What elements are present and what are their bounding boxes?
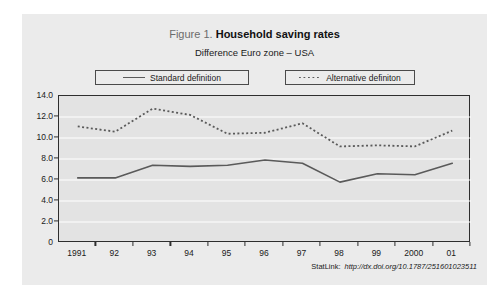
chart-legend: Standard definition Alternative definito…	[95, 70, 415, 85]
y-axis-tick-mark	[54, 220, 58, 221]
statlink-url[interactable]: http://dx.doi.org/10.1787/251601023511	[345, 262, 477, 271]
x-axis-tick-mark	[207, 242, 208, 246]
x-axis-tick-label: 92	[109, 248, 118, 258]
legend-label-alternative: Alternative definiton	[326, 73, 401, 83]
x-axis-tick-mark	[282, 242, 283, 246]
x-axis-tick-mark	[95, 242, 96, 246]
y-axis-tick-mark	[54, 136, 58, 137]
plot-wrapper: 14.012.010.08.06.04.02.00 19919293949596…	[58, 95, 470, 242]
x-axis-tick-label: 96	[259, 248, 268, 258]
x-axis-tick-label: 95	[222, 248, 231, 258]
y-axis-tick-label: 14.0	[36, 90, 53, 100]
x-axis-tick-mark	[469, 242, 470, 246]
x-axis-tick-mark	[357, 242, 358, 246]
legend-label-standard: Standard definition	[150, 73, 221, 83]
legend-item-standard-definition[interactable]: Standard definition	[95, 70, 249, 85]
series-line-standard	[78, 160, 453, 182]
y-axis-tick-mark	[54, 178, 58, 179]
chart-canvas	[59, 96, 471, 243]
figure-subtitle: Difference Euro zone – USA	[22, 47, 487, 58]
x-axis-tick-mark	[394, 242, 395, 246]
statlink-label: StatLink:	[311, 262, 340, 271]
y-axis-tick-label: 8.0	[41, 153, 53, 163]
figure-panel: Figure 1. Household saving rates Differe…	[22, 14, 487, 285]
figure-title-text: Household saving rates	[216, 28, 340, 40]
x-axis-tick-label: 94	[184, 248, 193, 258]
x-axis-tick-label: 2000	[404, 248, 423, 258]
x-axis-tick-mark	[432, 242, 433, 246]
dotted-line-icon	[299, 74, 321, 82]
y-axis-tick-label: 10.0	[36, 132, 53, 142]
y-axis-tick-label: 4.0	[41, 195, 53, 205]
x-axis-tick-label: 93	[147, 248, 156, 258]
x-axis-tick-label: 99	[372, 248, 381, 258]
x-axis-tick-label: 97	[297, 248, 306, 258]
y-axis-tick-label: 12.0	[36, 111, 53, 121]
y-axis-tick-mark	[54, 157, 58, 158]
statlink: StatLink:http://dx.doi.org/10.1787/25160…	[311, 262, 477, 271]
solid-line-icon	[123, 74, 145, 82]
figure-label: Figure 1.	[169, 28, 212, 40]
y-axis-tick-mark	[54, 115, 58, 116]
x-axis-tick-mark	[320, 242, 321, 246]
x-axis-tick-mark	[170, 242, 171, 246]
x-axis-tick-label: 98	[334, 248, 343, 258]
legend-item-alternative-definition[interactable]: Alternative definiton	[285, 70, 415, 85]
x-axis-tick-label: 1991	[67, 248, 86, 258]
plot-area	[58, 95, 470, 242]
y-axis-tick-label: 0	[48, 237, 53, 247]
x-axis-tick-label: 01	[447, 248, 456, 258]
series-line-alternative	[78, 109, 453, 147]
x-axis-tick-mark	[245, 242, 246, 246]
x-axis-tick-mark	[132, 242, 133, 246]
series-lines	[78, 109, 453, 183]
figure-title: Figure 1. Household saving rates	[22, 28, 487, 40]
y-axis-tick-label: 2.0	[41, 216, 53, 226]
y-axis-tick-mark	[54, 199, 58, 200]
y-axis-tick-label: 6.0	[41, 174, 53, 184]
